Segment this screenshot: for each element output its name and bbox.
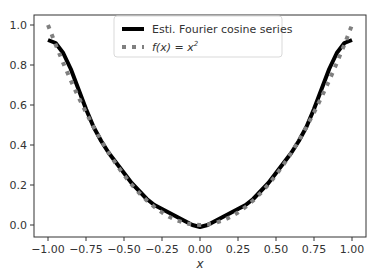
legend: Esti. Fourier cosine series f(x) = x2 <box>114 16 293 57</box>
legend-label-fourier: Esti. Fourier cosine series <box>152 23 293 36</box>
x-tick-label: 0.50 <box>264 243 289 256</box>
x-axis-label: x <box>195 257 204 271</box>
x-tick-label: 0.25 <box>226 243 251 256</box>
x-tick-label: 0.00 <box>188 243 213 256</box>
x-tick-label: −0.50 <box>107 243 141 256</box>
y-tick-label: 0.2 <box>10 179 28 192</box>
y-tick-label: 0.8 <box>10 59 28 72</box>
x-axis-ticks: −1.00−0.75−0.50−0.250.000.250.500.751.00 <box>31 237 364 256</box>
x-tick-label: −0.25 <box>145 243 179 256</box>
y-tick-label: 0.6 <box>10 99 28 112</box>
x-tick-label: 1.00 <box>340 243 365 256</box>
y-axis-ticks: 0.00.20.40.60.81.0 <box>10 19 35 232</box>
y-tick-label: 1.0 <box>10 19 28 32</box>
legend-label-fx: f(x) = x2 <box>152 40 199 54</box>
chart-figure: −1.00−0.75−0.50−0.250.000.250.500.751.00… <box>0 0 377 279</box>
x-tick-label: 0.75 <box>302 243 327 256</box>
x-tick-label: −0.75 <box>69 243 103 256</box>
x-tick-label: −1.00 <box>31 243 65 256</box>
y-tick-label: 0.4 <box>10 139 28 152</box>
y-tick-label: 0.0 <box>10 219 28 232</box>
